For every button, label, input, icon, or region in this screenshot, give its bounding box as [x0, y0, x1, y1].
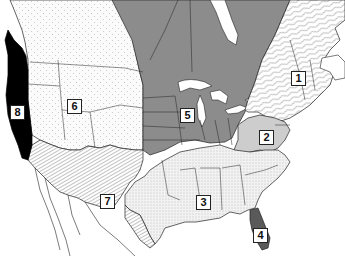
region-label-3: 3 [196, 195, 211, 210]
region-label-7: 7 [100, 194, 115, 209]
region-label-6: 6 [67, 99, 82, 114]
region-label-2: 2 [259, 130, 274, 145]
region-label-8: 8 [10, 105, 25, 120]
region-map [0, 0, 345, 256]
region-label-4: 4 [253, 228, 268, 243]
region-label-1: 1 [291, 71, 306, 86]
region-label-5: 5 [180, 108, 195, 123]
